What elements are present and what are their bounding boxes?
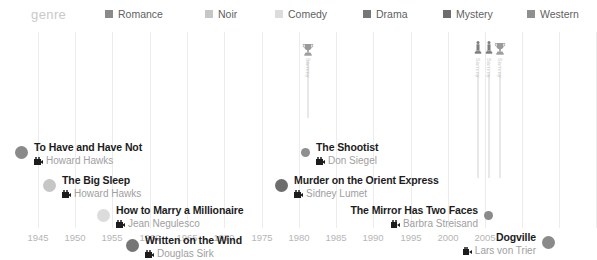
film-director: Howard Hawks	[74, 188, 141, 200]
axis-tick-label: 1945	[27, 232, 48, 243]
movie-camera-icon	[316, 157, 325, 165]
award-stem-line	[500, 74, 501, 178]
film-title: Dogville	[496, 231, 536, 243]
legend-item-romance[interactable]: Romance	[105, 9, 163, 19]
film-director: Don Siegel	[328, 155, 377, 167]
film-label-group: DogvilleLars von Trier	[463, 227, 542, 257]
film-title: To Have and Have Not	[34, 141, 142, 153]
axis-tick-label: 1985	[325, 232, 346, 243]
movie-camera-icon	[294, 190, 303, 198]
film-entry[interactable]: How to Marry a MillionaireJean Negulesco	[97, 200, 244, 230]
axis-tick-label: 1955	[101, 232, 122, 243]
legend-item-noir[interactable]: Noir	[205, 9, 237, 19]
film-director: Howard Hawks	[46, 155, 113, 167]
film-genre-dot[interactable]	[97, 209, 110, 222]
film-director-row: Sidney Lumet	[294, 188, 439, 200]
film-label-group: To Have and Have NotHoward Hawks	[28, 137, 142, 167]
award-label: Sammy	[305, 58, 311, 78]
genre-legend: genre RomanceNoirComedyDramaMysteryWeste…	[0, 0, 597, 32]
axis-tick-label: 1995	[400, 232, 421, 243]
film-label-group: Murder on the Orient ExpressSidney Lumet	[288, 170, 439, 200]
legend-item-label: Mystery	[456, 9, 493, 19]
trophy-icon	[495, 41, 506, 59]
film-entry[interactable]: Written on the WindDouglas Sirk	[126, 230, 242, 260]
movie-camera-icon	[34, 157, 43, 165]
film-title: Written on the Wind	[145, 234, 242, 246]
gridline	[448, 32, 449, 228]
film-title: The Big Sleep	[62, 174, 130, 186]
film-entry[interactable]: To Have and Have NotHoward Hawks	[15, 137, 142, 167]
legend-item-drama[interactable]: Drama	[363, 9, 408, 19]
film-director: Lars von Trier	[475, 245, 536, 257]
award-stem-line	[489, 74, 490, 178]
legend-title: genre	[31, 7, 66, 22]
film-director: Sidney Lumet	[306, 188, 367, 200]
axis-tick-label: 2000	[437, 232, 458, 243]
film-label-group: The ShootistDon Siegel	[310, 137, 378, 167]
legend-item-comedy[interactable]: Comedy	[275, 9, 327, 19]
legend-swatch-icon	[205, 10, 213, 18]
gridline	[522, 32, 523, 228]
film-title: Murder on the Orient Express	[294, 174, 439, 186]
legend-item-label: Noir	[218, 9, 237, 19]
movie-camera-icon	[62, 190, 71, 198]
film-director-row: Howard Hawks	[62, 188, 141, 200]
film-title: The Mirror Has Two Faces	[350, 204, 478, 216]
film-director-row: Jean Negulesco	[116, 218, 244, 230]
legend-swatch-icon	[527, 10, 535, 18]
film-entry[interactable]: The ShootistDon Siegel	[301, 137, 378, 167]
legend-item-label: Romance	[118, 9, 163, 19]
timeline-plot: 1945195019551960196519701975198019851990…	[0, 32, 597, 255]
film-genre-dot[interactable]	[126, 239, 139, 252]
legend-item-label: Western	[540, 9, 579, 19]
legend-item-mystery[interactable]: Mystery	[443, 9, 493, 19]
film-title: The Shootist	[316, 141, 378, 153]
gridline	[559, 32, 560, 228]
legend-item-western[interactable]: Western	[527, 9, 579, 19]
movie-camera-icon	[116, 220, 125, 228]
film-director-row: Douglas Sirk	[145, 248, 242, 260]
legend-swatch-icon	[363, 10, 371, 18]
film-genre-dot[interactable]	[43, 179, 56, 192]
gridline	[262, 32, 263, 228]
film-genre-dot[interactable]	[15, 146, 28, 159]
axis-tick-label: 1980	[288, 232, 309, 243]
film-genre-dot[interactable]	[542, 236, 555, 249]
award-marker[interactable]: Sammy	[300, 32, 316, 118]
film-genre-dot[interactable]	[484, 211, 493, 220]
movie-camera-icon	[463, 247, 472, 255]
gridline	[150, 32, 151, 228]
legend-item-label: Comedy	[288, 9, 327, 19]
film-director-row: Don Siegel	[316, 155, 378, 167]
award-label: Sammy	[497, 58, 503, 78]
film-director-row: Lars von Trier	[463, 245, 536, 257]
legend-item-label: Drama	[376, 9, 408, 19]
film-entry[interactable]: The Big SleepHoward Hawks	[43, 170, 141, 200]
film-entry[interactable]: Murder on the Orient ExpressSidney Lumet	[275, 170, 439, 200]
gridline	[38, 32, 39, 228]
award-stem-line	[478, 74, 479, 178]
film-director-row: Howard Hawks	[34, 155, 142, 167]
gridline	[224, 32, 225, 228]
film-genre-dot[interactable]	[301, 148, 310, 157]
axis-tick-label: 1990	[362, 232, 383, 243]
film-genre-dot[interactable]	[275, 179, 288, 192]
film-label-group: The Big SleepHoward Hawks	[56, 170, 141, 200]
movie-camera-icon	[145, 250, 154, 258]
film-title: How to Marry a Millionaire	[116, 204, 244, 216]
movie-camera-icon	[391, 220, 400, 228]
axis-tick-label: 1950	[64, 232, 85, 243]
film-label-group: The Mirror Has Two FacesBarbra Streisand	[350, 200, 484, 230]
legend-swatch-icon	[105, 10, 113, 18]
film-entry[interactable]: DogvilleLars von Trier	[463, 227, 555, 257]
gridline	[187, 32, 188, 228]
axis-tick-label: 1975	[251, 232, 272, 243]
film-entry[interactable]: The Mirror Has Two FacesBarbra Streisand	[350, 200, 493, 230]
award-marker[interactable]: Sammy	[492, 32, 508, 178]
film-director-row: Barbra Streisand	[350, 218, 478, 230]
legend-swatch-icon	[443, 10, 451, 18]
film-label-group: How to Marry a MillionaireJean Negulesco	[110, 200, 244, 230]
legend-swatch-icon	[275, 10, 283, 18]
film-director: Jean Negulesco	[128, 218, 200, 230]
film-director: Douglas Sirk	[157, 248, 214, 260]
